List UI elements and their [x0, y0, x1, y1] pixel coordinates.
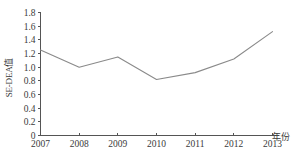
x-tick-label: 2008	[70, 139, 89, 149]
line-chart: SE-DEA值 00.20.40.60.81.01.21.41.61.8 200…	[0, 0, 299, 155]
x-tick-label: 2009	[108, 139, 127, 149]
plot-area: 00.20.40.60.81.01.21.41.61.8 20072008200…	[0, 0, 299, 155]
y-tick-label: 0.6	[24, 90, 36, 100]
y-tick-label: 0.8	[24, 76, 36, 86]
y-tick-label: 1.2	[24, 49, 36, 59]
y-tick-label: 0.4	[24, 104, 36, 114]
y-tick-label: 1.0	[24, 63, 36, 73]
x-axis-title: 年份	[272, 130, 290, 143]
x-tick-group: 2007200820092010201120122013	[31, 133, 282, 149]
x-tick-label: 2012	[224, 139, 243, 149]
x-tick-label: 2007	[31, 139, 50, 149]
y-tick-label: 1.4	[24, 35, 36, 45]
y-tick-group: 00.20.40.60.81.01.21.41.61.8	[24, 8, 41, 141]
x-tick-label: 2011	[186, 139, 205, 149]
data-series-line	[41, 32, 273, 80]
x-tick-label: 2010	[147, 139, 166, 149]
y-tick-label: 0.2	[24, 117, 36, 127]
y-tick-label: 1.8	[24, 8, 36, 18]
y-tick-label: 1.6	[24, 22, 36, 32]
